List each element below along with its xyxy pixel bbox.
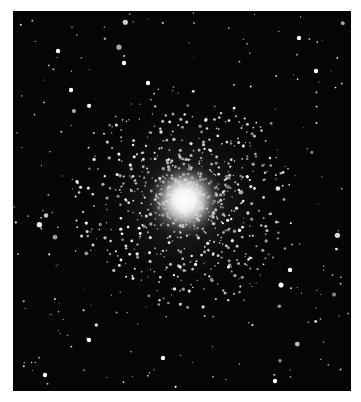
star-field-photo	[13, 11, 351, 391]
star-field-graphic	[13, 11, 351, 391]
cluster-core	[143, 158, 227, 242]
